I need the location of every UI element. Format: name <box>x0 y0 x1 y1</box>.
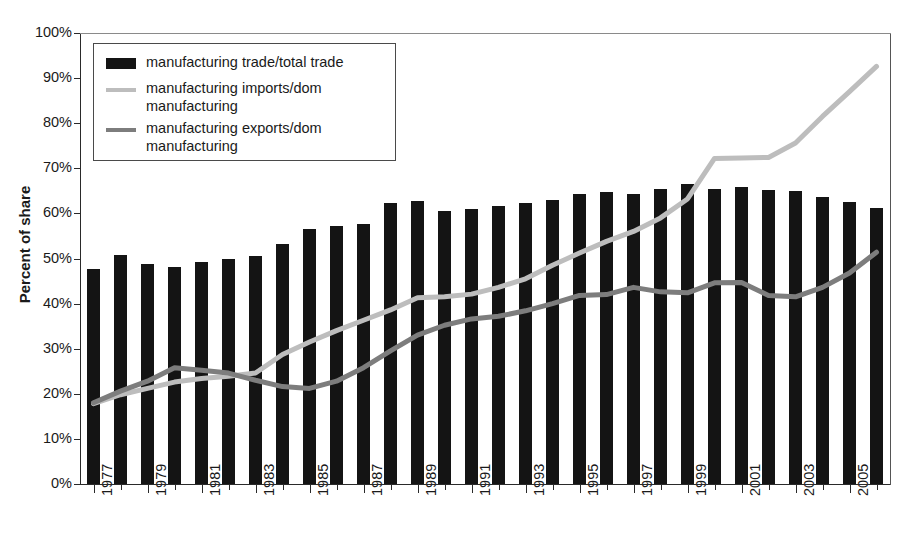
legend-dark-line-swatch-icon <box>106 128 136 132</box>
bar <box>843 202 856 484</box>
x-axis-tick-label: 2001 <box>748 464 763 496</box>
x-axis-tick-label: 2003 <box>802 464 817 496</box>
bar <box>249 256 262 484</box>
x-axis-tick-mark <box>742 484 743 493</box>
bar <box>654 189 667 484</box>
bar <box>519 203 532 484</box>
legend-item-label: manufacturing imports/dom manufacturing <box>146 80 395 115</box>
bar <box>789 191 802 484</box>
bar <box>168 267 181 484</box>
bar <box>411 201 424 484</box>
plot-axis-left <box>80 33 81 485</box>
bar <box>573 194 586 484</box>
x-axis-tick-label: 1981 <box>208 464 223 496</box>
x-axis-tick-mark <box>634 484 635 493</box>
x-axis-tick-label: 1991 <box>478 464 493 496</box>
bar <box>546 200 559 484</box>
legend-bar-swatch-icon <box>106 58 136 69</box>
bar <box>141 264 154 484</box>
chart-legend: manufacturing trade/total trade manufact… <box>93 43 396 161</box>
x-axis-tick-mark <box>526 484 527 493</box>
legend-item-label: manufacturing exports/dom manufacturing <box>146 120 395 155</box>
plot-border-right <box>890 33 891 485</box>
x-axis-tick-label: 1993 <box>532 464 547 496</box>
bar <box>600 192 613 484</box>
legend-item-manufacturing-imports-dom-manufacturing: manufacturing imports/dom manufacturing <box>106 80 395 115</box>
bar <box>681 184 694 484</box>
bar <box>222 259 235 484</box>
bar <box>330 226 343 484</box>
x-axis-tick-mark <box>94 484 95 493</box>
y-axis-tick-label: 0% <box>20 476 72 491</box>
plot-axis-bottom <box>80 484 891 485</box>
x-axis-tick-label: 1999 <box>694 464 709 496</box>
x-axis-tick-mark <box>472 484 473 493</box>
x-axis-tick-label: 1987 <box>370 464 385 496</box>
legend-item-manufacturing-trade-total-trade: manufacturing trade/total trade <box>106 54 343 72</box>
bar <box>762 190 775 484</box>
y-axis-tick-label: 20% <box>20 386 72 401</box>
x-axis-tick-label: 1977 <box>100 464 115 496</box>
y-axis-tick-label: 50% <box>20 251 72 266</box>
bar <box>357 224 370 484</box>
y-axis-tick-label: 70% <box>20 160 72 175</box>
bar <box>114 255 127 484</box>
legend-light-line-swatch-icon <box>106 88 136 92</box>
line-manufacturing-exports-dom-manufacturing <box>94 252 877 403</box>
y-axis-tick-label: 60% <box>20 205 72 220</box>
manufacturing-trade-share-chart: Percent of share 0%10%20%30%40%50%60%70%… <box>0 0 904 534</box>
y-axis-tick-label: 30% <box>20 341 72 356</box>
y-axis-tick-label: 100% <box>20 25 72 40</box>
x-axis-tick-label: 1997 <box>640 464 655 496</box>
legend-item-manufacturing-exports-dom-manufacturing: manufacturing exports/dom manufacturing <box>106 120 395 155</box>
x-axis-tick-mark <box>310 484 311 493</box>
bar <box>303 229 316 484</box>
plot-border-top <box>80 33 891 34</box>
bar <box>627 194 640 484</box>
legend-item-label: manufacturing trade/total trade <box>146 54 343 72</box>
x-axis-tick-mark <box>796 484 797 493</box>
bar <box>492 206 505 484</box>
bar <box>870 208 883 484</box>
y-axis-tick-label: 10% <box>20 431 72 446</box>
x-axis-tick-mark <box>688 484 689 493</box>
bar <box>708 189 721 484</box>
bar <box>735 187 748 484</box>
x-axis-tick-mark <box>850 484 851 493</box>
x-axis-tick-mark <box>580 484 581 493</box>
y-axis-tick-label: 90% <box>20 70 72 85</box>
bar <box>438 211 451 484</box>
x-axis-tick-mark <box>148 484 149 493</box>
x-axis-tick-mark <box>418 484 419 493</box>
x-axis-tick-label: 2005 <box>856 464 871 496</box>
bar <box>87 269 100 484</box>
bar <box>816 197 829 484</box>
x-axis-tick-mark <box>202 484 203 493</box>
y-axis-tick-label: 80% <box>20 115 72 130</box>
x-axis-tick-mark <box>256 484 257 493</box>
y-axis-tick-label: 40% <box>20 296 72 311</box>
x-axis-tick-mark <box>364 484 365 493</box>
bar <box>276 244 289 484</box>
x-axis-tick-label: 1995 <box>586 464 601 496</box>
bar <box>465 209 478 484</box>
x-axis-tick-label: 1985 <box>316 464 331 496</box>
x-axis-tick-label: 1979 <box>154 464 169 496</box>
bar <box>384 203 397 484</box>
bar <box>195 262 208 484</box>
x-axis-tick-label: 1983 <box>262 464 277 496</box>
x-axis-tick-label: 1989 <box>424 464 439 496</box>
